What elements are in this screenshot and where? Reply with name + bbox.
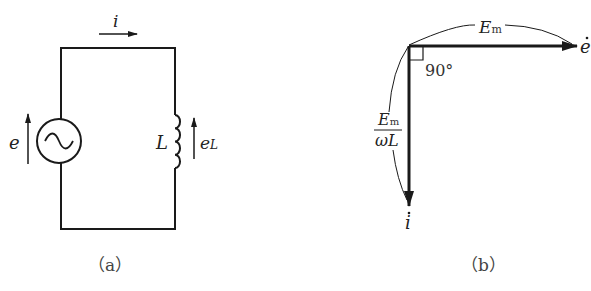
magnitude-arc-horizontal (409, 25, 475, 45)
angle-label: 90° (425, 61, 453, 80)
inductor-emf-label: eL (200, 133, 218, 153)
svg-text:ωL: ωL (375, 131, 399, 150)
inductor-icon (175, 115, 180, 168)
emf-phasor-label: e (580, 36, 591, 57)
svg-text:Em: Em (377, 110, 400, 129)
vertical-magnitude-fraction: Em ωL (374, 110, 402, 150)
source-emf-label: e (9, 132, 20, 153)
phasor-diagram: 90° Em e i Em ωL （b） (374, 17, 591, 275)
magnitude-arc-vertical-bottom (393, 150, 407, 200)
svg-text:e: e (580, 36, 591, 57)
circuit-diagram: i e L eL （a） (9, 11, 218, 275)
magnitude-arc-vertical-top (389, 47, 408, 112)
horizontal-magnitude-label: Em (478, 17, 502, 37)
ac-source-icon (37, 119, 81, 163)
current-label: i (113, 11, 118, 31)
caption-b: （b） (461, 255, 506, 275)
current-phasor-label: i (405, 212, 411, 233)
caption-a: （a） (88, 255, 132, 275)
magnitude-arc-horizontal-right (505, 25, 572, 44)
inductor-label: L (155, 132, 168, 153)
right-angle-marker-icon (409, 46, 423, 60)
svg-text:i: i (405, 212, 411, 233)
figure-canvas: i e L eL （a） 90° Em e (0, 0, 591, 291)
